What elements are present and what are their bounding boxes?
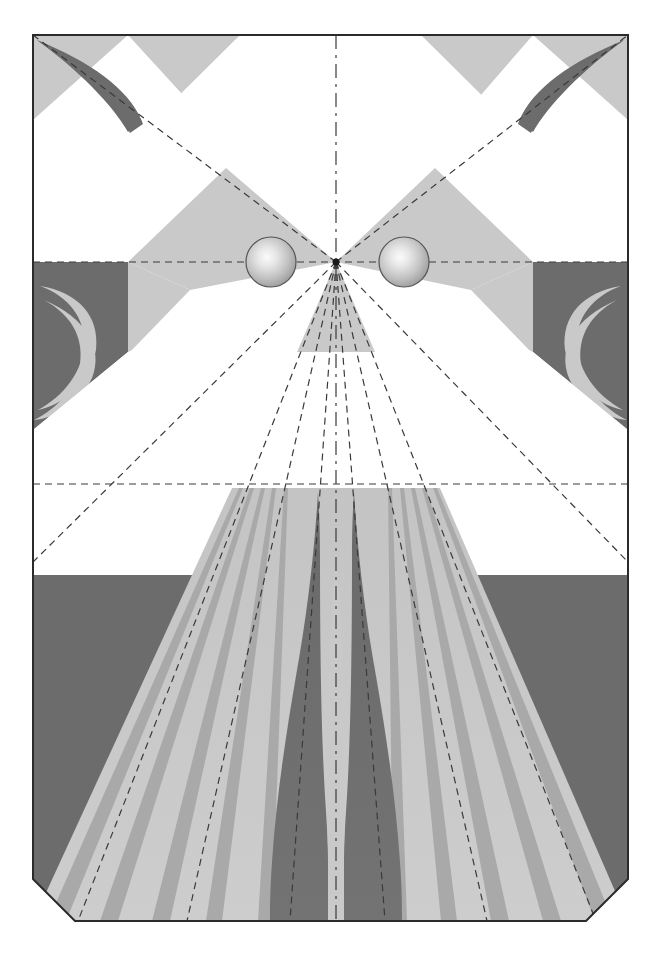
- illustration-stage: [0, 0, 661, 958]
- perspective-figure: [0, 0, 661, 958]
- vanishing-point-marker: [333, 259, 340, 266]
- sphere-left: [246, 237, 296, 287]
- sphere-right: [379, 237, 429, 287]
- framed-artwork: [33, 35, 628, 921]
